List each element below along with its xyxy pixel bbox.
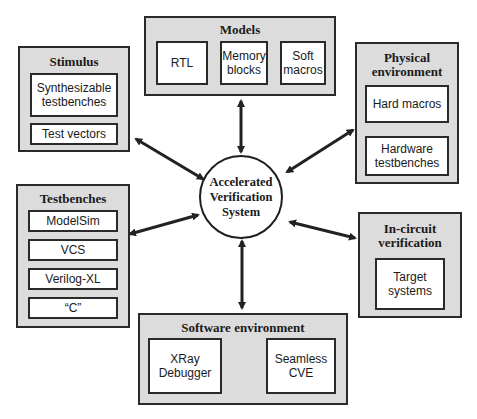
group-testbenches: Testbenches ModelSim VCS Verilog-XL “C”: [16, 184, 130, 328]
arrow-testbenches: [130, 215, 198, 234]
group-software-environment: Software environment XRay Debugger Seaml…: [138, 313, 348, 405]
group-title-models: Models: [146, 23, 334, 37]
item-target-systems: Target systems: [375, 258, 445, 310]
group-title-software: Software environment: [140, 321, 346, 335]
item-verilog-xl: Verilog-XL: [28, 268, 118, 290]
item-memory-blocks: Memory blocks: [220, 41, 268, 85]
group-title-physical: Physical environment: [357, 51, 457, 79]
group-title-testbenches: Testbenches: [18, 192, 128, 206]
item-rtl: RTL: [156, 41, 208, 85]
group-physical-environment: Physical environment Hard macros Hardwar…: [355, 42, 459, 184]
group-in-circuit-verification: In-circuit verification Target systems: [358, 212, 462, 318]
group-stimulus: Stimulus Synthesizable testbenches Test …: [18, 46, 130, 152]
arrow-stimulus: [136, 139, 203, 179]
item-test-vectors: Test vectors: [30, 123, 118, 145]
item-hardware-testbenches: Hardware testbenches: [365, 136, 449, 176]
arrow-physical: [287, 130, 353, 172]
group-title-incircuit: In-circuit verification: [360, 222, 460, 250]
accelerated-verification-system: Accelerated Verification System: [199, 155, 283, 239]
group-models: Models RTL Memory blocks Soft macros: [144, 16, 336, 96]
item-soft-macros: Soft macros: [280, 41, 326, 85]
item-synthesizable-testbenches: Synthesizable testbenches: [30, 73, 118, 117]
item-c: “C”: [28, 297, 118, 319]
group-title-stimulus: Stimulus: [20, 55, 128, 69]
item-hard-macros: Hard macros: [365, 85, 449, 123]
item-vcs: VCS: [28, 239, 118, 261]
item-modelsim: ModelSim: [28, 210, 118, 232]
arrow-incircuit: [290, 222, 355, 238]
item-seamless-cve: Seamless CVE: [266, 338, 336, 394]
item-xray-debugger: XRay Debugger: [148, 338, 222, 394]
